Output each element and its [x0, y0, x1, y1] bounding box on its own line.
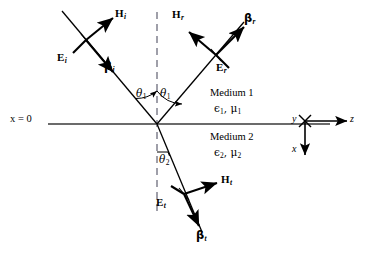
theta-2-transmitted-subscript: 2 — [166, 158, 170, 167]
incident-H-symbol: H — [115, 7, 124, 19]
medium-1-mu: μ — [231, 102, 238, 114]
transmitted-E-label: Et — [156, 197, 166, 209]
medium-2-mu-subscript: 2 — [238, 151, 242, 160]
theta-2-transmitted-label: θ2 — [159, 154, 169, 166]
incident-H-vector — [86, 18, 113, 40]
incident-beta-subscript: i — [113, 65, 115, 74]
incident-beta-symbol: β — [104, 59, 112, 73]
incident-H-label: Hi — [115, 8, 126, 20]
wave-reflection-refraction-figure: x = 0 Ei Hi βi Er Hr βr Et Ht βt θ1 θ1 θ… — [0, 0, 366, 254]
medium-2-separator: , — [224, 146, 231, 158]
transmitted-H-subscript: t — [230, 178, 232, 187]
medium-2-label: Medium 2 — [210, 132, 253, 143]
medium-2-mu: μ — [231, 146, 238, 158]
x-equals-zero-label: x = 0 — [10, 114, 32, 125]
reflected-E-subscript: r — [224, 66, 227, 75]
transmitted-H-label: Ht — [221, 174, 232, 186]
transmitted-beta-symbol: β — [196, 228, 204, 242]
reflected-E-symbol: E — [216, 61, 223, 73]
incident-E-label: Ei — [57, 52, 67, 64]
incident-E-symbol: E — [57, 51, 64, 63]
figure-vector-graphics — [0, 0, 366, 254]
axis-label-z: z — [350, 114, 354, 124]
medium-1-separator: , — [224, 102, 231, 114]
medium-1-constants: ϵ1, μ1 — [214, 103, 241, 115]
medium-2-epsilon: ϵ — [214, 146, 220, 158]
transmitted-beta-label: βt — [196, 230, 207, 242]
theta-1-incident-label: θ1 — [136, 88, 146, 100]
reflected-H-subscript: r — [181, 13, 184, 22]
transmitted-E-subscript: t — [164, 201, 166, 210]
transmitted-beta-subscript: t — [205, 234, 207, 243]
transmitted-H-symbol: H — [221, 173, 230, 185]
transmitted-H-vector — [184, 183, 217, 194]
reflected-beta-label: βr — [244, 13, 255, 25]
axis-label-x: x — [292, 144, 296, 154]
theta-1-reflected-symbol: θ — [160, 87, 166, 99]
transmitted-E-vector — [171, 186, 184, 194]
reflected-H-symbol: H — [172, 8, 181, 20]
medium-1-mu-subscript: 1 — [238, 107, 242, 116]
reflected-beta-vector — [216, 27, 244, 55]
reflected-H-label: Hr — [172, 9, 184, 21]
incident-E-subscript: i — [65, 56, 67, 65]
theta-1-incident-symbol: θ — [136, 87, 142, 99]
incident-H-subscript: i — [124, 12, 126, 21]
theta-2-transmitted-symbol: θ — [159, 153, 165, 165]
reflected-H-vector — [189, 32, 216, 55]
medium-1-epsilon: ϵ — [214, 102, 220, 114]
transmitted-E-symbol: E — [156, 196, 163, 208]
reflected-beta-symbol: β — [244, 11, 252, 25]
incident-beta-label: βi — [104, 61, 115, 73]
medium-1-label: Medium 1 — [210, 88, 253, 99]
axis-label-y: y — [292, 114, 296, 124]
incident-E-vector — [73, 40, 86, 53]
theta-1-reflected-label: θ1 — [160, 88, 170, 100]
medium-2-constants: ϵ2, μ2 — [214, 147, 241, 159]
theta-1-incident-subscript: 1 — [143, 92, 147, 101]
coordinate-axes — [299, 115, 347, 155]
theta-1-reflected-subscript: 1 — [167, 92, 171, 101]
transmitted-beta-vector — [184, 194, 199, 226]
reflected-E-label: Er — [216, 62, 227, 74]
reflected-beta-subscript: r — [253, 17, 256, 26]
